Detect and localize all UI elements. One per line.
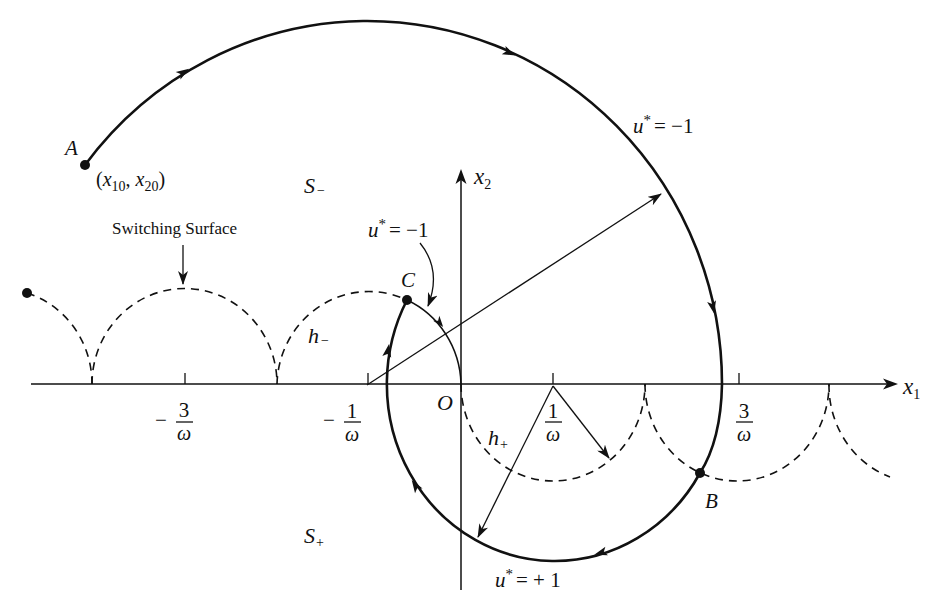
point-a-name: A	[63, 136, 78, 160]
tick-sign: −	[155, 408, 167, 432]
axis-var: x	[902, 374, 914, 399]
point-c-name: C	[401, 268, 416, 292]
control-label-lower: u*= + 1	[495, 566, 561, 592]
point-c-dot	[402, 295, 412, 305]
control-label-upper: u*= −1	[633, 112, 693, 138]
axis-sub: 1	[913, 387, 920, 402]
tick-sign: −	[323, 408, 335, 432]
point-b-label: B	[705, 489, 718, 513]
control-var: u	[495, 568, 506, 592]
point-a-dot	[80, 160, 90, 170]
control-rhs: = −1	[389, 218, 428, 242]
point-b-name: B	[705, 489, 718, 513]
curve-var: h	[488, 425, 499, 450]
point-c-label: C	[401, 268, 416, 292]
control-var: u	[633, 114, 644, 138]
tick-numerator: 3	[739, 399, 750, 423]
region-sub: +	[316, 535, 324, 550]
control-sup: *	[506, 566, 514, 582]
region-var: S	[304, 523, 315, 548]
paren-close: )	[158, 168, 165, 191]
coord-x1-sub: 10	[112, 179, 126, 194]
control-var: u	[368, 218, 379, 242]
control-sup: *	[379, 216, 387, 232]
curve-sub: +	[500, 437, 508, 452]
axis-var: x	[473, 164, 485, 189]
phase-plane-diagram: A (x10, x20) u*= −1 S− x2 Switching Surf…	[0, 0, 940, 613]
switching-surface-label: Switching Surface	[112, 219, 237, 238]
coord-x2-sub: 20	[144, 179, 158, 194]
origin-text: O	[437, 390, 453, 415]
coord-x2-var: x	[135, 168, 145, 190]
tick-denominator: ω	[177, 422, 191, 444]
origin-label: O	[437, 390, 453, 415]
control-rhs: = + 1	[516, 568, 561, 592]
curve-var: h	[308, 323, 319, 348]
control-label-middle: u*= −1	[368, 216, 428, 242]
tick-numerator: 1	[347, 399, 358, 423]
point-b-dot	[695, 468, 705, 478]
switching-surface-text: Switching Surface	[112, 219, 237, 238]
control-sup: *	[644, 112, 652, 128]
region-var: S	[304, 173, 315, 198]
switching-surface-end-dot	[22, 288, 32, 298]
point-a-label: A	[63, 136, 78, 160]
coord-sep: ,	[126, 168, 136, 190]
tick-denominator: ω	[546, 423, 560, 445]
control-rhs: = −1	[654, 114, 693, 138]
tick-denominator: ω	[345, 423, 359, 445]
curve-sub: −	[321, 333, 329, 348]
tick-numerator: 1	[548, 399, 559, 423]
axis-sub: 2	[484, 177, 491, 192]
coord-x1-var: x	[102, 168, 112, 190]
tick-numerator: 3	[179, 398, 190, 422]
tick-denominator: ω	[737, 423, 751, 445]
background	[0, 0, 940, 613]
region-sub: −	[317, 183, 325, 198]
